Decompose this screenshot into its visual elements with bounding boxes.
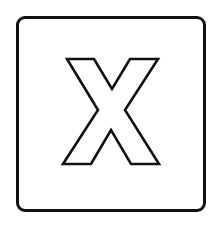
close-button[interactable] bbox=[16, 16, 206, 212]
